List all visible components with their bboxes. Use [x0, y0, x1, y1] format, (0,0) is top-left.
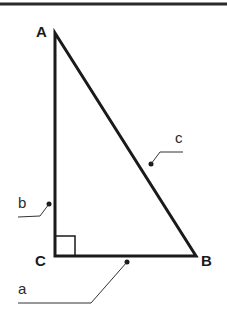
side-c-leader — [151, 152, 183, 164]
vertex-b-label: B — [201, 252, 212, 269]
vertex-c-label: C — [35, 252, 46, 269]
side-a-label: a — [18, 280, 27, 297]
vertex-a-label: A — [36, 23, 47, 40]
triangle-diagram: A B C a b c — [0, 0, 227, 322]
side-c-label: c — [175, 129, 183, 146]
side-b-label: b — [18, 194, 26, 211]
right-angle-marker — [55, 236, 75, 256]
